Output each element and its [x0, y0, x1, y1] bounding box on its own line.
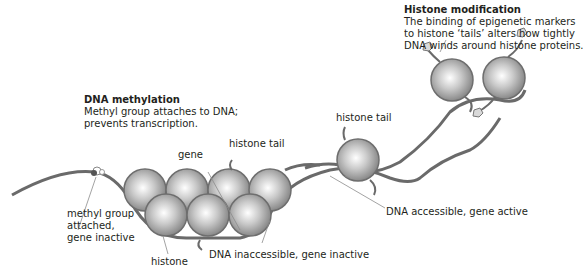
- methyl-group-label-line2: attached,: [67, 220, 115, 232]
- histone-modification-desc-line2: to histone ‘tails’ alters how tightly: [404, 28, 575, 40]
- dna-accessible-label: DNA accessible, gene active: [386, 206, 528, 218]
- histone-label: histone: [151, 256, 188, 268]
- methyl-group-label-line3: gene inactive: [67, 232, 135, 244]
- methyl-group-icon: [91, 167, 105, 176]
- histone-modification-desc-line3: DNA winds around histone proteins.: [404, 40, 584, 52]
- histone-modification-desc-line1: The binding of epigenetic markers: [404, 16, 576, 28]
- histone-tail-label-left: histone tail: [229, 138, 285, 150]
- histone-open-1: [337, 127, 379, 195]
- histone-modification-title: Histone modification: [404, 4, 521, 16]
- methyl-group-label-line1: methyl group: [67, 208, 134, 220]
- dna-inaccessible-label: DNA inaccessible, gene inactive: [209, 249, 369, 261]
- dna-methylation-desc-line1: Methyl group attaches to DNA;: [84, 106, 238, 118]
- gene-label: gene: [178, 149, 203, 161]
- dna-methylation-desc-line2: prevents transcription.: [84, 118, 198, 130]
- dna-methylation-title: DNA methylation: [84, 94, 180, 106]
- histone-cluster: [124, 160, 291, 250]
- histone-tail-label-right: histone tail: [336, 112, 392, 124]
